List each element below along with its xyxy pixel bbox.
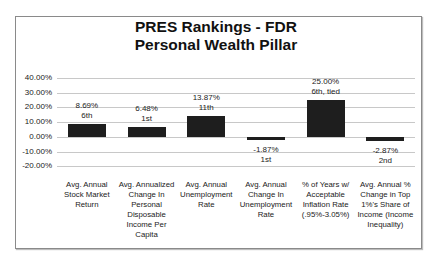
chart-title-line1: PRES Rankings - FDR — [0, 18, 432, 36]
y-tick-label: -10.00% — [14, 147, 52, 156]
data-label: 25.00%6th, tied — [296, 77, 356, 97]
gridline — [57, 166, 415, 167]
y-tick-label: 20.00% — [14, 102, 52, 111]
bar — [68, 124, 106, 137]
category-label: Avg. AnnualizedChange InPersonalDisposab… — [116, 180, 178, 240]
data-label: 6.48%1st — [117, 104, 177, 124]
chart-title-line2: Personal Wealth Pillar — [0, 36, 432, 54]
data-label: -1.87%1st — [236, 145, 296, 165]
y-tick-label: 10.00% — [14, 117, 52, 126]
category-label: Avg. AnnualStock MarketReturn — [56, 180, 118, 210]
y-tick-label: -20.00% — [14, 161, 52, 170]
chart-title: PRES Rankings - FDR Personal Wealth Pill… — [0, 18, 432, 54]
bar — [366, 137, 404, 141]
y-tick-label: 30.00% — [14, 88, 52, 97]
bar — [128, 127, 166, 137]
category-label: Avg. AnnualUnemploymentRate — [175, 180, 237, 210]
category-label: % of Years w/AcceptableInflation Rate(.9… — [295, 180, 357, 220]
bar — [187, 116, 225, 136]
gridline — [57, 122, 415, 123]
y-tick-label: 40.00% — [14, 73, 52, 82]
category-label: Avg. Annual %Change in Top1%'s Share ofI… — [354, 180, 416, 230]
category-label: Avg. AnnualChange InUnemploymentRate — [235, 180, 297, 220]
gridline — [57, 137, 415, 138]
bar — [307, 100, 345, 137]
data-label: -2.87%2nd — [355, 146, 415, 166]
gridline — [57, 78, 415, 79]
data-label: 8.69%6th — [57, 101, 117, 121]
data-label: 13.87%11th — [176, 93, 236, 113]
bar — [247, 137, 285, 140]
y-tick-label: 0.00% — [14, 132, 52, 141]
